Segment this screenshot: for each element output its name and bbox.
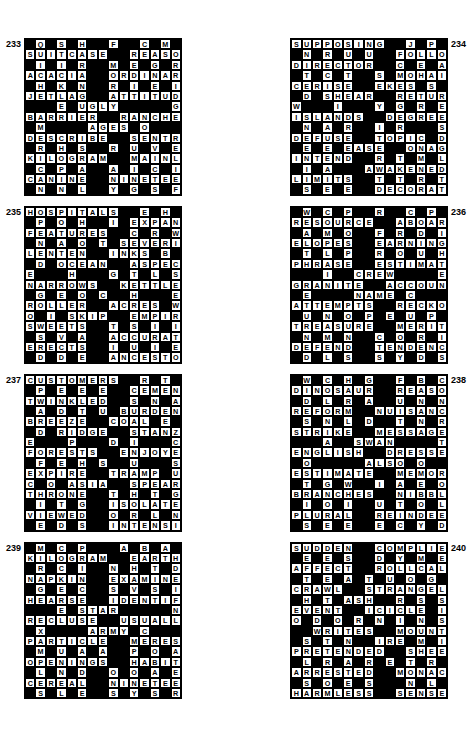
grid-letter-cell: R bbox=[160, 238, 170, 248]
grid-block-cell bbox=[56, 437, 66, 447]
grid-block-cell bbox=[139, 510, 149, 520]
grid-letter-cell: I bbox=[333, 280, 343, 290]
grid-letter-cell: N bbox=[343, 636, 353, 646]
grid-letter-cell: A bbox=[129, 468, 139, 478]
grid-block-cell bbox=[437, 678, 447, 688]
grid-letter-cell: M bbox=[108, 60, 118, 70]
grid-letter-cell: S bbox=[374, 70, 384, 80]
grid-letter-cell: H bbox=[25, 207, 35, 217]
crossword-grid-239[interactable]: MCPABAKILOGRAMEARTHRCINHTDNAPKINEXAMINEG… bbox=[24, 542, 182, 700]
grid-letter-cell: E bbox=[35, 248, 45, 258]
grid-block-cell bbox=[364, 70, 374, 80]
crossword-grid-235[interactable]: HOSPITALSEHPOHIEXPANFEATURESCRWNAOTSEVER… bbox=[24, 206, 182, 364]
grid-letter-cell: K bbox=[426, 300, 436, 310]
grid-block-cell bbox=[312, 437, 322, 447]
grid-block-cell bbox=[312, 228, 322, 238]
grid-block-cell bbox=[150, 437, 160, 447]
grid-letter-cell: E bbox=[46, 321, 56, 331]
puzzle-237: 237 CUSTOMERSRTPEEECEMENTWINKLEDSNAADTUB… bbox=[6, 374, 182, 532]
grid-letter-cell: K bbox=[395, 164, 405, 174]
grid-letter-cell: T bbox=[395, 499, 405, 509]
grid-letter-cell: I bbox=[56, 174, 66, 184]
grid-letter-cell: L bbox=[302, 657, 312, 667]
grid-block-cell bbox=[87, 574, 97, 584]
grid-letter-cell: T bbox=[322, 595, 332, 605]
grid-letter-cell: G bbox=[77, 91, 87, 101]
grid-letter-cell: H bbox=[437, 248, 447, 258]
grid-letter-cell: L bbox=[171, 153, 181, 163]
grid-block-cell bbox=[385, 217, 395, 227]
grid-letter-cell: A bbox=[291, 563, 301, 573]
crossword-grid-236[interactable]: WCPRCPRESOURCEABOARAMOFRDIELOPESEARNINGT… bbox=[290, 206, 448, 364]
grid-letter-cell: S bbox=[302, 636, 312, 646]
grid-letter-cell: M bbox=[139, 574, 149, 584]
grid-letter-cell: S bbox=[437, 122, 447, 132]
grid-letter-cell: A bbox=[343, 574, 353, 584]
grid-letter-cell: C bbox=[437, 406, 447, 416]
grid-letter-cell: T bbox=[343, 667, 353, 677]
grid-letter-cell: A bbox=[312, 489, 322, 499]
grid-letter-cell: D bbox=[364, 416, 374, 426]
grid-letter-cell: V bbox=[129, 584, 139, 594]
crossword-grid-233[interactable]: QSHFCMSUITCASEREASOIIRMEGRACACIAORDINARH… bbox=[24, 38, 182, 196]
grid-letter-cell: E bbox=[87, 375, 97, 385]
grid-block-cell bbox=[416, 122, 426, 132]
grid-letter-cell: R bbox=[374, 510, 384, 520]
grid-letter-cell: S bbox=[333, 667, 343, 677]
grid-block-cell bbox=[385, 39, 395, 49]
grid-letter-cell: C bbox=[291, 584, 301, 594]
grid-letter-cell: E bbox=[437, 427, 447, 437]
grid-block-cell bbox=[171, 626, 181, 636]
grid-block-cell bbox=[437, 39, 447, 49]
grid-letter-cell: U bbox=[160, 91, 170, 101]
grid-letter-cell: S bbox=[77, 342, 87, 352]
grid-letter-cell: H bbox=[291, 688, 301, 698]
grid-letter-cell: A bbox=[108, 91, 118, 101]
grid-letter-cell: E bbox=[67, 300, 77, 310]
crossword-grid-238[interactable]: WCHGFBCDINOSAURREASODLRAUNNREFORMNUISANC… bbox=[290, 374, 448, 532]
grid-letter-cell: T bbox=[302, 248, 312, 258]
crossword-grid-240[interactable]: SUDDENCOMPLIEEESDYMEAFFECTROLLCALTEATUOG… bbox=[290, 542, 448, 700]
grid-letter-cell: R bbox=[139, 375, 149, 385]
grid-letter-cell: G bbox=[426, 427, 436, 437]
grid-letter-cell: T bbox=[56, 499, 66, 509]
grid-letter-cell: R bbox=[312, 60, 322, 70]
grid-letter-cell: G bbox=[312, 447, 322, 457]
grid-letter-cell: I bbox=[150, 153, 160, 163]
crossword-grid-237[interactable]: CUSTOMERSRTPEEECEMENTWINKLEDSNAADTUBURDE… bbox=[24, 374, 182, 532]
grid-letter-cell: E bbox=[35, 133, 45, 143]
grid-letter-cell: N bbox=[416, 164, 426, 174]
grid-letter-cell: M bbox=[35, 646, 45, 656]
grid-letter-cell: L bbox=[322, 248, 332, 258]
grid-letter-cell: M bbox=[35, 122, 45, 132]
grid-block-cell bbox=[405, 396, 415, 406]
grid-letter-cell: N bbox=[333, 342, 343, 352]
grid-block-cell bbox=[25, 667, 35, 677]
grid-letter-cell: E bbox=[437, 510, 447, 520]
puzzle-number-235: 235 bbox=[6, 206, 21, 217]
grid-letter-cell: S bbox=[108, 688, 118, 698]
grid-letter-cell: A bbox=[385, 164, 395, 174]
grid-letter-cell: O bbox=[35, 207, 45, 217]
grid-letter-cell: D bbox=[291, 342, 301, 352]
grid-letter-cell: H bbox=[67, 269, 77, 279]
grid-letter-cell: A bbox=[56, 238, 66, 248]
grid-letter-cell: E bbox=[302, 217, 312, 227]
grid-block-cell bbox=[139, 184, 149, 194]
grid-block-cell bbox=[291, 49, 301, 59]
grid-block-cell bbox=[385, 228, 395, 238]
crossword-grid-234[interactable]: SUPPOSINGJPNRUUFOLLODIRECTORCEATCTSMOHAI… bbox=[290, 38, 448, 196]
grid-letter-cell: O bbox=[171, 49, 181, 59]
grid-letter-cell: A bbox=[35, 406, 45, 416]
grid-letter-cell: O bbox=[416, 217, 426, 227]
grid-block-cell bbox=[119, 60, 129, 70]
grid-letter-cell: F bbox=[35, 458, 45, 468]
grid-block-cell bbox=[353, 101, 363, 111]
grid-letter-cell: O bbox=[129, 499, 139, 509]
grid-letter-cell: C bbox=[333, 563, 343, 573]
grid-letter-cell: A bbox=[87, 153, 97, 163]
grid-block-cell bbox=[353, 406, 363, 416]
grid-letter-cell: T bbox=[437, 174, 447, 184]
grid-block-cell bbox=[108, 238, 118, 248]
grid-letter-cell: E bbox=[56, 605, 66, 615]
